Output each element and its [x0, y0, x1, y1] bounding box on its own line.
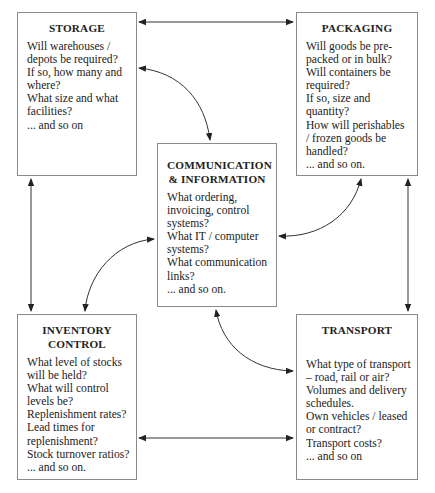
storage-box: STORAGE Will warehouses / depots be requ… [17, 12, 137, 176]
communication-questions: What ordering, invoicing, control system… [167, 191, 267, 296]
packaging-box: PACKAGING Will goods be pre- packed or i… [296, 12, 418, 176]
arrow-inventory-communication [85, 239, 154, 311]
communication-box: COMMUNICATION & INFORMATION What orderin… [157, 143, 277, 307]
communication-title: COMMUNICATION & INFORMATION [167, 158, 267, 186]
inventory-control-questions: What level of stocks will be held? What … [27, 356, 127, 474]
transport-box: TRANSPORT What type of transport – road,… [296, 314, 418, 480]
transport-questions: What type of transport – road, rail or a… [306, 358, 408, 463]
transport-title: TRANSPORT [306, 323, 408, 337]
arrow-transport-communication [216, 310, 293, 371]
arrow-storage-communication [139, 68, 210, 140]
inventory-control-title: INVENTORY CONTROL [27, 323, 127, 351]
storage-questions: Will warehouses / depots be required? If… [27, 40, 127, 132]
packaging-title: PACKAGING [306, 21, 408, 35]
arrow-packaging-communication [279, 179, 361, 236]
inventory-control-box: INVENTORY CONTROL What level of stocks w… [17, 314, 137, 480]
storage-title: STORAGE [27, 21, 127, 35]
packaging-questions: Will goods be pre- packed or in bulk? Wi… [306, 40, 408, 171]
